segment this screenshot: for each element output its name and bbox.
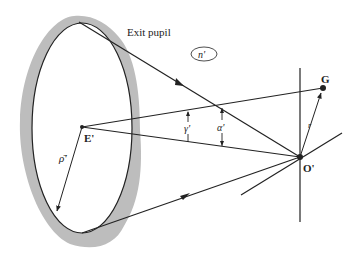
point-g: [320, 85, 326, 91]
alpha-label: α': [217, 122, 225, 133]
pupil-center-label: E': [84, 132, 94, 144]
point-e-prime: [80, 125, 84, 129]
gamma-arrow-head: [186, 111, 190, 116]
alpha-arrow-head-down: [220, 141, 224, 146]
optics-diagram: Exit pupil n' E' O' G ρ̄' γ' α' r: [0, 0, 361, 260]
exit-pupil-label: Exit pupil: [127, 26, 171, 38]
image-point-label: O': [303, 162, 315, 174]
object-point-label: G: [321, 73, 330, 85]
gamma-label: γ': [184, 123, 191, 134]
ray-arrow-upper: [175, 78, 184, 86]
pupil-radius-label: ρ̄': [58, 152, 67, 164]
tilted-plane-line: [241, 133, 342, 195]
medium-index-label: n': [198, 49, 206, 60]
point-o-prime: [297, 154, 303, 160]
